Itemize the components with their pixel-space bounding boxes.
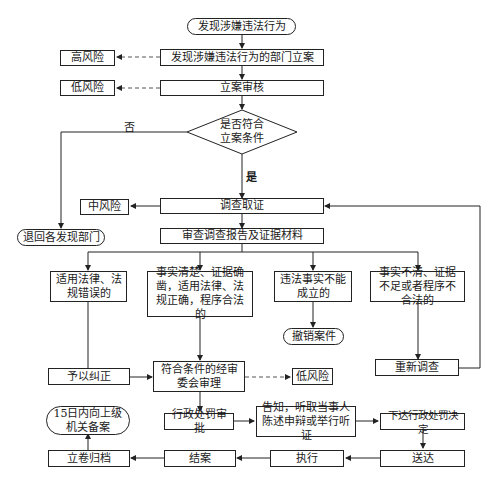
risk-high-box: 高风险	[60, 50, 115, 66]
investigate-label: 调查取证	[220, 199, 264, 213]
start-label: 发现涉嫌违法行为	[198, 20, 286, 34]
issue-decision-box: 下达行政处罚决定	[380, 413, 465, 430]
branch-facts-clear-label: 事实清楚、证据确凿，适用法律、法规正确，程序合法的	[151, 266, 249, 322]
no-label: 否	[124, 118, 135, 134]
deliver-label: 送达	[412, 452, 434, 466]
start-terminal: 发现涉嫌违法行为	[187, 18, 296, 35]
execute-box: 执行	[270, 450, 344, 467]
execute-label: 执行	[296, 452, 318, 466]
archive-box: 立卷归档	[48, 450, 130, 467]
archive-label: 立卷归档	[67, 452, 111, 466]
branch-facts-unclear: 事实不清、证据不足或者程序不合法的	[370, 271, 465, 302]
yes-label: 是	[246, 168, 257, 184]
penalty-approval-label: 行政处罚审批	[168, 408, 230, 436]
notify-hearing-label: 告知，听取当事人陈述申辩或举行听证	[260, 401, 352, 443]
close-case-label: 结案	[189, 452, 211, 466]
decision-line-1: 是否符合	[212, 118, 272, 132]
risk-low-box-2: 低风险	[292, 368, 333, 385]
filing-review-label: 立案审核	[220, 81, 264, 95]
return-dept-terminal: 退回各发现部门	[17, 229, 105, 246]
reinvestigate-label: 重新调查	[395, 361, 439, 375]
report-superior-label: 15日内向上级机关备案	[50, 407, 126, 435]
committee-review-label: 符合条件的经审委会审理	[157, 363, 241, 391]
committee-review-box: 符合条件的经审委会审理	[153, 361, 245, 392]
issue-decision-label: 下达行政处罚决定	[384, 408, 461, 436]
decision-diamond: 是否符合 立案条件	[212, 118, 272, 146]
branch-law-error-label: 适用法律、法规错误的	[54, 273, 123, 301]
risk-low-label-1: 低风险	[71, 81, 104, 95]
revoke-case-terminal: 撤销案件	[283, 328, 344, 345]
return-dept-label: 退回各发现部门	[23, 231, 100, 245]
decision-line-2: 立案条件	[212, 132, 272, 146]
dept-filing-label: 发现涉嫌违法行为的部门立案	[171, 51, 314, 65]
branch-facts-clear: 事实清楚、证据确凿，适用法律、法规正确，程序合法的	[147, 271, 253, 317]
notify-hearing-box: 告知，听取当事人陈述申辩或举行听证	[256, 406, 356, 437]
risk-mid-box: 中风险	[80, 199, 129, 215]
branch-facts-not-established: 违法事实不能成立的	[274, 271, 352, 302]
dept-filing-box: 发现涉嫌违法行为的部门立案	[160, 49, 324, 66]
branch-facts-not-established-label: 违法事实不能成立的	[278, 273, 348, 301]
correct-box: 予以纠正	[48, 368, 130, 385]
branch-facts-unclear-label: 事实不清、证据不足或者程序不合法的	[374, 266, 461, 308]
revoke-case-label: 撤销案件	[292, 330, 336, 344]
correct-label: 予以纠正	[67, 370, 111, 384]
investigate-box: 调查取证	[160, 198, 324, 214]
deliver-box: 送达	[380, 450, 465, 467]
risk-low-label-2: 低风险	[296, 370, 329, 384]
penalty-approval-box: 行政处罚审批	[164, 413, 234, 430]
risk-mid-label: 中风险	[88, 200, 121, 214]
report-superior-terminal: 15日内向上级机关备案	[46, 406, 130, 435]
close-case-box: 结案	[164, 450, 236, 467]
reinvestigate-box: 重新调查	[375, 359, 459, 376]
risk-high-label: 高风险	[71, 51, 104, 65]
branch-law-error: 适用法律、法规错误的	[50, 271, 127, 302]
risk-low-box-1: 低风险	[60, 80, 115, 96]
filing-review-box: 立案审核	[160, 80, 324, 96]
review-report-box: 审查调查报告及证据材料	[160, 228, 324, 244]
review-report-label: 审查调查报告及证据材料	[182, 229, 303, 243]
